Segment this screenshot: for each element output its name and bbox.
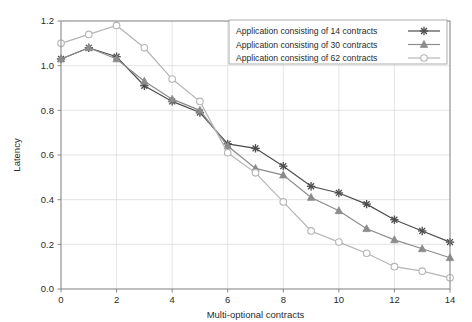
data-point-2-5 [197, 98, 204, 105]
data-point-1-11 [363, 225, 370, 232]
x-tick-label: 6 [225, 294, 230, 305]
legend-label-0: Application consisting of 14 contracts [236, 26, 377, 36]
data-point-2-11 [363, 250, 370, 257]
data-point-2-8 [280, 199, 287, 206]
x-axis-title: Multi-optional contracts [207, 309, 305, 320]
x-tick-label: 8 [281, 294, 286, 305]
data-point-2-4 [169, 76, 176, 83]
latency-line-chart: 024681012140.00.20.40.60.81.01.2Multi-op… [0, 0, 472, 322]
x-tick-label: 14 [445, 294, 456, 305]
chart-figure: 024681012140.00.20.40.60.81.01.2Multi-op… [0, 0, 472, 322]
series-line-1 [61, 48, 450, 258]
y-tick-label: 0.2 [41, 239, 54, 250]
data-point-2-3 [141, 45, 148, 52]
data-point-1-3 [141, 77, 148, 84]
x-tick-label: 12 [389, 294, 400, 305]
x-tick-label: 2 [114, 294, 119, 305]
y-tick-label: 0.0 [41, 283, 54, 294]
data-point-2-10 [336, 239, 343, 246]
data-point-0-7 [251, 144, 259, 152]
data-point-2-1 [85, 31, 92, 38]
data-point-2-13 [419, 268, 426, 275]
x-tick-label: 4 [169, 294, 174, 305]
y-axis-title: Latency [11, 138, 22, 172]
data-point-2-2 [113, 22, 120, 29]
data-point-2-6 [224, 149, 231, 156]
legend-label-1: Application consisting of 30 contracts [236, 40, 377, 50]
y-tick-label: 0.6 [41, 149, 54, 160]
y-tick-label: 0.8 [41, 105, 54, 116]
data-point-2-12 [391, 263, 398, 270]
y-tick-label: 1.2 [41, 15, 54, 26]
legend-marker-2 [421, 55, 428, 62]
data-point-0-13 [418, 227, 426, 235]
data-point-0-8 [279, 162, 287, 170]
data-point-2-7 [252, 170, 259, 177]
y-tick-label: 1.0 [41, 60, 54, 71]
x-tick-label: 0 [58, 294, 63, 305]
chart-legend[interactable]: Application consisting of 14 contractsAp… [229, 20, 447, 64]
data-point-1-9 [307, 193, 314, 200]
data-point-2-9 [308, 228, 315, 235]
data-point-0-9 [307, 182, 315, 190]
data-point-0-12 [390, 216, 398, 224]
data-point-1-10 [335, 207, 342, 214]
data-point-0-10 [335, 189, 343, 197]
y-tick-label: 0.4 [41, 194, 54, 205]
legend-label-2: Application consisting of 62 contracts [236, 53, 377, 63]
data-point-0-11 [362, 200, 370, 208]
x-tick-label: 10 [334, 294, 345, 305]
